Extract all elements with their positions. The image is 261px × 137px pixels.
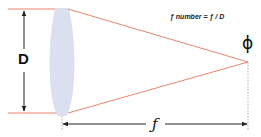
bottom-converging-ray [68, 62, 248, 113]
lens-shape [50, 8, 75, 116]
lens-diagram [0, 0, 261, 137]
focal-point-symbol: ϕ [242, 33, 253, 53]
diameter-label: D [18, 50, 29, 67]
f-number-formula: ƒ number = ƒ / D [170, 13, 224, 20]
focal-length-label: ƒ [149, 115, 161, 133]
